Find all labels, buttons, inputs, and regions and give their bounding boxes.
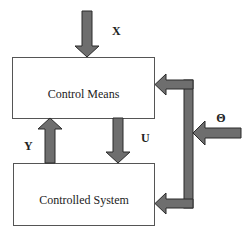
feedback-control-diagram: Control Means Controlled System X Y U Θ xyxy=(0,0,251,234)
theta-signal-label: Θ xyxy=(216,111,225,125)
x-input-arrow-icon xyxy=(75,11,99,57)
y-signal-label: Y xyxy=(24,139,33,153)
controlled-system-block: Controlled System xyxy=(14,164,155,226)
control-means-block: Control Means xyxy=(13,58,155,119)
u-control-arrow-icon xyxy=(106,118,130,163)
x-signal-label: X xyxy=(112,24,121,38)
controlled-system-label: Controlled System xyxy=(39,193,129,207)
control-means-label: Control Means xyxy=(48,87,120,101)
u-signal-label: U xyxy=(141,131,150,145)
y-feedback-arrow-icon xyxy=(38,118,62,163)
theta-disturbance-arrow-icon xyxy=(155,74,241,214)
